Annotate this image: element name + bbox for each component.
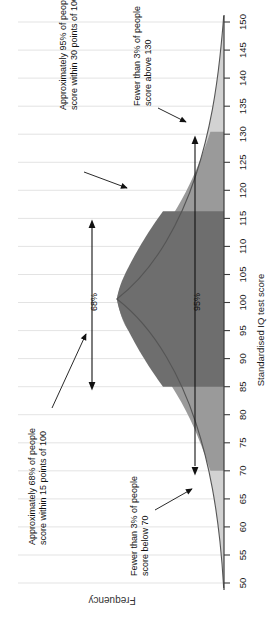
tick-label-120: 120 xyxy=(237,182,248,198)
chart-figure: 68% 95% xyxy=(0,0,268,622)
tick-label-90: 90 xyxy=(237,353,248,364)
y-axis-title: Frequency xyxy=(88,595,135,606)
tick-label-110: 110 xyxy=(237,239,248,254)
annotation-95-line1: Approximately 95% of people xyxy=(58,0,68,110)
tick-label-80: 80 xyxy=(237,409,248,420)
x-axis-title: Standardised IQ test score xyxy=(255,274,266,386)
iq-normal-distribution-chart: 68% 95% xyxy=(0,0,268,622)
annotation-above130-line2: score above 130 xyxy=(143,39,153,106)
annotation-below70-line1: Fewer than 3% of people xyxy=(129,476,139,576)
tick-label-130: 130 xyxy=(237,126,248,142)
tick-label-70: 70 xyxy=(237,466,248,477)
tick-label-85: 85 xyxy=(237,381,248,392)
tick-label-75: 75 xyxy=(237,438,248,449)
tick-label-115: 115 xyxy=(237,211,248,226)
annotation-68-line1: Approximately 68% of people xyxy=(27,428,37,545)
label-68-percent: 68% xyxy=(89,293,99,311)
label-95-percent: 95% xyxy=(192,293,202,311)
annotation-68-line2: score within 15 points of 100 xyxy=(38,431,48,545)
axis-tick-labels: 150 145 140 135 130 125 120 115 110 105 … xyxy=(237,14,248,588)
tick-label-95: 95 xyxy=(237,325,248,336)
tick-label-60: 60 xyxy=(237,522,248,533)
tick-label-145: 145 xyxy=(237,42,248,58)
annotation-above130-line1: Fewer than 3% of people xyxy=(132,6,142,106)
tick-label-65: 65 xyxy=(237,494,248,505)
tick-label-55: 55 xyxy=(237,550,248,561)
tick-label-50: 50 xyxy=(237,578,248,589)
tick-label-100: 100 xyxy=(237,295,248,311)
tick-label-150: 150 xyxy=(237,14,248,30)
tick-label-140: 140 xyxy=(237,70,248,86)
tick-label-125: 125 xyxy=(237,154,248,170)
tick-label-135: 135 xyxy=(237,98,248,114)
axis-ticks xyxy=(224,22,230,583)
tick-label-105: 105 xyxy=(237,267,248,283)
annotation-95-line2: score within 30 points of 100 xyxy=(69,0,79,110)
annotation-below70-line2: score below 70 xyxy=(140,515,150,576)
